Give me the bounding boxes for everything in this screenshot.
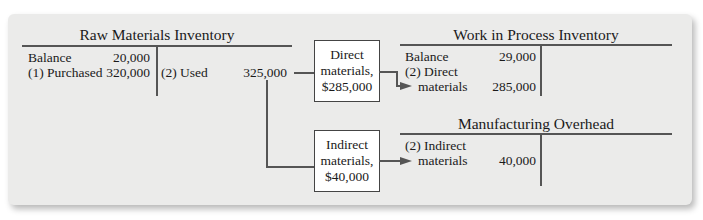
arrow-line xyxy=(379,71,397,73)
debit-label: (1) Purchased xyxy=(28,65,103,80)
arrow-line xyxy=(396,71,398,86)
debit-amount: 29,000 xyxy=(480,49,536,64)
credit-amount: 325,000 xyxy=(230,65,287,80)
box-line: materials, xyxy=(315,63,379,79)
debit-label: (2) Direct xyxy=(405,64,458,79)
t-account-divider xyxy=(540,45,542,96)
t-account-top-rule xyxy=(400,44,672,46)
direct-materials-box: Direct materials, $285,000 xyxy=(314,40,380,102)
t-account-top-rule xyxy=(400,133,672,135)
box-line: Direct xyxy=(315,47,379,63)
box-line: $40,000 xyxy=(315,169,379,185)
t-account-divider xyxy=(156,46,158,96)
connector-down xyxy=(266,80,268,167)
box-line: materials, xyxy=(315,153,379,169)
box-line: $285,000 xyxy=(315,79,379,95)
indirect-materials-box: Indirect materials, $40,000 xyxy=(314,130,380,192)
raw-materials-title: Raw Materials Inventory xyxy=(22,26,292,44)
wip-title: Work in Process Inventory xyxy=(400,26,672,44)
debit-label: materials xyxy=(418,79,467,94)
arrow-head-icon xyxy=(400,82,412,90)
debit-amount: 320,000 xyxy=(100,65,150,80)
credit-label: (2) Used xyxy=(161,65,208,80)
debit-label: (2) Indirect xyxy=(405,138,466,153)
connector-to-direct xyxy=(294,72,314,74)
debit-amount: 20,000 xyxy=(100,50,150,65)
debit-label: materials xyxy=(418,153,467,168)
connector-to-indirect xyxy=(266,166,315,168)
box-line: Indirect xyxy=(315,137,379,153)
debit-amount: 285,000 xyxy=(480,79,536,94)
arrow-line xyxy=(379,160,401,162)
arrow-head-icon xyxy=(400,157,412,165)
t-account-divider xyxy=(540,134,542,186)
debit-label: Balance xyxy=(405,49,448,64)
debit-amount: 40,000 xyxy=(480,153,536,168)
overhead-title: Manufacturing Overhead xyxy=(400,115,672,133)
debit-label: Balance xyxy=(28,50,71,65)
